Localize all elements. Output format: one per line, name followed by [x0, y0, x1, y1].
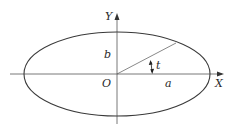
diagram-graphics [0, 0, 233, 138]
angle-arrow-up-icon [149, 60, 153, 65]
origin-label: O [102, 78, 111, 89]
y-axis-arrow-icon [115, 13, 120, 20]
angle-arrow-down-icon [150, 69, 154, 74]
radius-line [117, 43, 176, 74]
parameter-label: t [156, 60, 160, 71]
semi-minor-label: b [104, 49, 111, 60]
x-axis-label: X [215, 78, 223, 89]
x-axis-arrow-icon [217, 72, 224, 77]
y-axis-label: Y [105, 11, 112, 22]
ellipse-diagram: Y X O b a t [0, 0, 233, 138]
semi-major-label: a [165, 78, 172, 89]
